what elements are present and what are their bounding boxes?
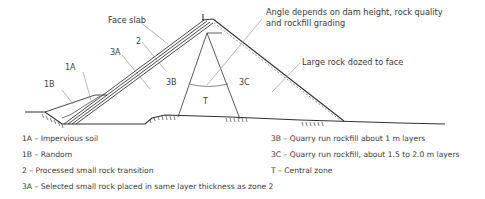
leader-lines <box>62 19 300 104</box>
angle-arc <box>189 84 228 87</box>
angle-note-line2: and rockfill grading <box>266 18 345 28</box>
zone-2-label: 2 <box>136 37 141 46</box>
zone-T-boundary <box>178 33 240 119</box>
legend-right: 3B – Quarry run rockfill about 1 m layer… <box>271 134 460 176</box>
legend-item-T: T – Central zone <box>271 166 460 176</box>
large-rock-face <box>214 23 340 120</box>
downstream-slope <box>213 19 344 121</box>
legend-left: 1A – Impervious soil 1B – Random 2 – Pro… <box>22 134 273 192</box>
zone-3C-label: 3C <box>239 78 250 87</box>
zone-3B-label: 3B <box>166 78 177 87</box>
face-slab-label: Face slab <box>108 15 146 25</box>
legend-item-3A: 3A – Selected small rock placed in same … <box>22 182 273 192</box>
legend-item-3B: 3B – Quarry run rockfill about 1 m layer… <box>271 134 460 144</box>
zone-3A-label: 3A <box>110 48 121 57</box>
zone-1B-label: 1B <box>44 80 55 89</box>
face-slab-lines <box>64 20 213 124</box>
ground-line <box>25 112 445 124</box>
zone-T-label: T <box>202 97 208 106</box>
large-rock-label: Large rock dozed to face <box>302 57 403 67</box>
angle-note-line1: Angle depends on dam height, rock qualit… <box>266 7 443 17</box>
legend-item-3C: 3C – Quarry run rockfill, about 1.5 to 2… <box>271 150 460 160</box>
zone-1A-label: 1A <box>65 63 76 72</box>
legend-item-2: 2 – Processed small rock transition <box>22 166 273 176</box>
legend-item-1B: 1B – Random <box>22 150 273 160</box>
legend-item-1A: 1A – Impervious soil <box>22 134 273 144</box>
dam-crest <box>202 14 213 20</box>
